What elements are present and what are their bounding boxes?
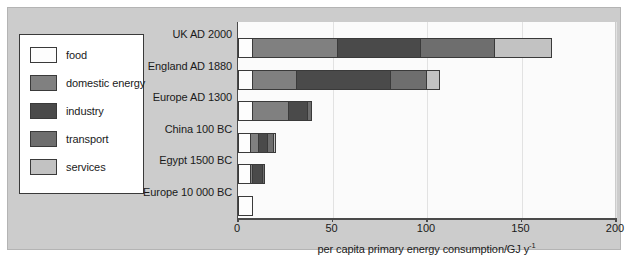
bar-segment-services — [273, 134, 275, 152]
chart-figure: fooddomestic energyindustrytransportserv… — [0, 0, 634, 261]
stacked-bar-5[interactable] — [238, 196, 253, 216]
category-label-4: Egypt 1500 BC — [8, 154, 232, 166]
category-label-5: Europe 10 000 BC — [8, 186, 232, 198]
bar-row — [238, 164, 265, 184]
category-label-2: Europe AD 1300 — [8, 91, 232, 103]
bar-segment-transport — [390, 71, 426, 89]
chart-panel: fooddomestic energyindustrytransportserv… — [7, 7, 621, 250]
chart-legend: fooddomestic energyindustrytransportserv… — [19, 34, 144, 194]
bar-segment-industry — [337, 39, 420, 57]
legend-label: industry — [66, 105, 104, 117]
bar-segment-industry — [296, 71, 391, 89]
stacked-bar-1[interactable] — [238, 70, 440, 90]
bar-row — [238, 38, 552, 58]
x-tick-label-0: 0 — [234, 222, 240, 234]
bar-row — [238, 101, 312, 121]
bar-segment-domestic-energy — [252, 102, 288, 120]
bar-segment-food — [239, 102, 252, 120]
bar-segment-services — [426, 71, 439, 89]
bar-segment-transport — [262, 165, 264, 183]
category-label-1: England AD 1880 — [8, 60, 232, 72]
plot-area — [237, 22, 615, 218]
bar-segment-transport — [420, 39, 494, 57]
bar-segment-food — [239, 165, 250, 183]
legend-item-industry[interactable]: industry — [30, 101, 104, 120]
bar-segment-industry — [258, 134, 267, 152]
bar-segment-food — [239, 71, 252, 89]
x-axis-title-exponent: -1 — [529, 241, 535, 250]
gridline-200 — [616, 22, 617, 218]
stacked-bar-4[interactable] — [238, 164, 265, 184]
bar-row — [238, 133, 276, 153]
category-label-3: China 100 BC — [8, 123, 232, 135]
bar-segment-food — [239, 134, 250, 152]
bar-segment-domestic-energy — [250, 134, 258, 152]
bar-row — [238, 196, 253, 216]
bar-segment-domestic-energy — [252, 71, 295, 89]
x-tick-label-50: 50 — [325, 222, 337, 234]
x-tick-label-200: 200 — [606, 222, 624, 234]
stacked-bar-3[interactable] — [238, 133, 276, 153]
bar-segment-industry — [288, 102, 307, 120]
x-tick-label-100: 100 — [417, 222, 435, 234]
x-tick-label-150: 150 — [511, 222, 529, 234]
bar-row — [238, 70, 440, 90]
bar-segment-food — [239, 197, 252, 215]
bar-segment-food — [239, 39, 252, 57]
bar-segment-domestic-energy — [252, 39, 337, 57]
legend-swatch-domestic-energy — [30, 75, 57, 91]
bar-segment-industry — [252, 165, 261, 183]
legend-label: domestic energy — [66, 77, 145, 89]
bar-segment-services — [494, 39, 551, 57]
legend-item-domestic-energy[interactable]: domestic energy — [30, 73, 145, 92]
bar-segment-transport — [307, 102, 311, 120]
legend-swatch-industry — [30, 103, 57, 119]
x-axis-title: per capita primary energy consumption/GJ… — [237, 241, 616, 255]
stacked-bar-2[interactable] — [238, 101, 312, 121]
category-label-0: UK AD 2000 — [8, 28, 232, 40]
stacked-bar-0[interactable] — [238, 38, 552, 58]
